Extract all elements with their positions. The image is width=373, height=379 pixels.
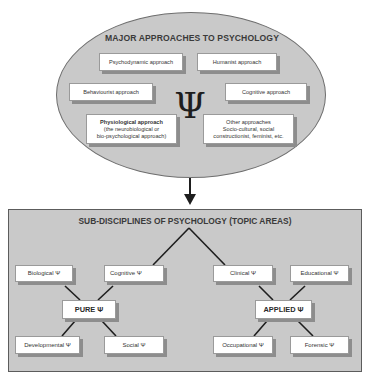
down-arrow-icon [184,178,196,205]
physiological-approach-detail-1: (the neurobiological or [104,126,159,133]
humanist-approach-box: Humanist approach [197,53,277,71]
other-approaches-detail-1: Socio-cultural, social [223,126,274,133]
cognitive-approach-label: Cognitive approach [242,89,290,96]
clinical-psychology-label: Clinical Ψ [230,270,256,277]
developmental-psychology-label: Developmental Ψ [24,342,71,349]
applied-psychology-label: APPLIED Ψ [263,306,303,313]
humanist-approach-label: Humanist approach [213,59,262,66]
other-approaches-box: Other approaches Socio-cultural, social … [203,114,294,144]
social-psychology-box: Social Ψ [104,336,164,354]
approaches-title: MAJOR APPROACHES TO PSYCHOLOGY [56,33,328,43]
psychodynamic-approach-label: Psychodynamic approach [109,59,173,66]
cognitive-psychology-label: Cognitive Ψ [110,270,142,277]
developmental-psychology-box: Developmental Ψ [15,336,80,354]
pure-psychology-box: PURE Ψ [62,300,116,319]
cognitive-psychology-box: Cognitive Ψ [104,265,164,282]
physiological-approach-detail-2: bio-psychological approach) [97,133,167,140]
other-approaches-detail-2: constructionist, feminist, etc. [213,133,283,140]
social-psychology-label: Social Ψ [122,342,145,349]
cognitive-approach-box: Cognitive approach [225,83,307,101]
psychodynamic-approach-box: Psychodynamic approach [99,53,183,71]
pure-psychology-label: PURE Ψ [75,306,104,313]
occupational-psychology-box: Occupational Ψ [213,336,273,354]
applied-psychology-box: APPLIED Ψ [255,300,312,319]
psychology-diagram: MAJOR APPROACHES TO PSYCHOLOGY Psychodyn… [0,0,373,379]
physiological-approach-box: Physiological approach (the neurobiologi… [86,114,177,144]
educational-psychology-label: Educational Ψ [300,270,338,277]
forensic-psychology-label: Forensic Ψ [305,342,335,349]
clinical-psychology-box: Clinical Ψ [213,265,273,282]
behaviourist-approach-label: Behaviourist approach [83,89,139,96]
biological-psychology-label: Biological Ψ [28,270,60,277]
behaviourist-approach-box: Behaviourist approach [69,83,153,101]
occupational-psychology-label: Occupational Ψ [222,342,264,349]
subdisciplines-title: SUB-DISCIPLINES OF PSYCHOLOGY (TOPIC ARE… [8,216,362,226]
educational-psychology-box: Educational Ψ [290,265,349,282]
other-approaches-label: Other approaches [226,119,271,126]
physiological-approach-label: Physiological approach [100,119,163,126]
forensic-psychology-box: Forensic Ψ [290,336,349,354]
biological-psychology-box: Biological Ψ [15,265,73,282]
